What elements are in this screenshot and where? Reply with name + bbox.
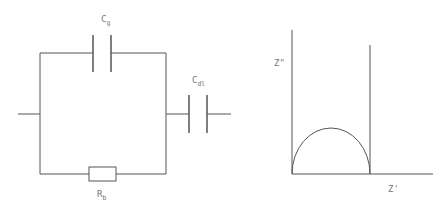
capacitor-cg (93, 35, 111, 72)
semicircle-arc (292, 128, 370, 174)
nyquist-plot: Z" Z' (274, 30, 433, 194)
diagram-canvas: Cg Rb Cdl Z" Z' (0, 0, 448, 208)
y-axis-label: Z" (274, 58, 285, 68)
equivalent-circuit: Cg Rb Cdl (18, 14, 231, 202)
x-axis-label: Z' (388, 184, 399, 194)
resistor-rb (89, 167, 116, 181)
cg-label: Cg (101, 14, 110, 27)
cdl-label: Cdl (192, 75, 205, 88)
rb-label: Rb (97, 189, 106, 202)
capacitor-cdl (189, 95, 207, 133)
